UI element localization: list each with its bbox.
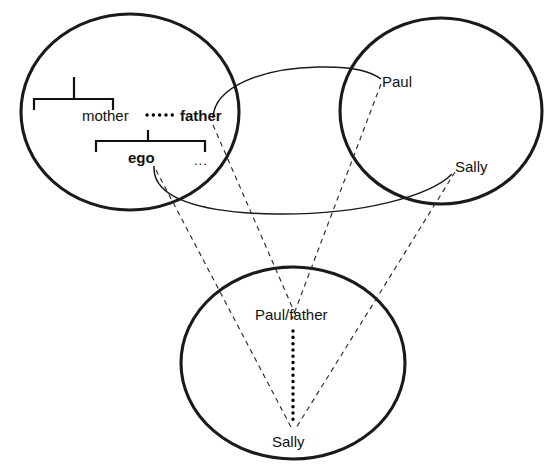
- names-node-sally: Sally: [455, 158, 488, 175]
- kinship-node-mother: mother: [82, 107, 129, 124]
- label-layer: mother father ego ... Paul Sally Paul/fa…: [0, 0, 553, 471]
- blend-node-sally: Sally: [272, 433, 305, 450]
- blend-network-diagram: mother father ego ... Paul Sally Paul/fa…: [0, 0, 553, 471]
- blend-node-paul-father: Paul/father: [255, 306, 328, 323]
- names-node-paul: Paul: [382, 73, 412, 90]
- kinship-node-father: father: [180, 107, 222, 124]
- kinship-node-sibling-ellipsis: ...: [194, 153, 208, 168]
- kinship-node-ego: ego: [128, 149, 155, 166]
